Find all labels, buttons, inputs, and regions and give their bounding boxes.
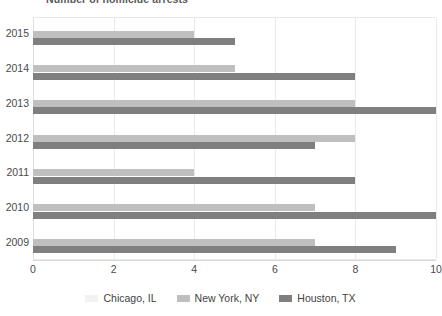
bar-new-york-2014 bbox=[33, 65, 235, 72]
legend-label: Chicago, IL bbox=[103, 292, 156, 304]
bar-houston-2011 bbox=[33, 177, 355, 184]
legend-item[interactable]: New York, NY bbox=[177, 292, 260, 304]
bar-group bbox=[33, 52, 436, 87]
legend-label: New York, NY bbox=[195, 292, 260, 304]
bar-group bbox=[33, 86, 436, 121]
legend-swatch-icon bbox=[85, 295, 98, 302]
legend-item[interactable]: Chicago, IL bbox=[85, 292, 156, 304]
bar-houston-2010 bbox=[33, 212, 436, 219]
legend-label: Houston, TX bbox=[297, 292, 355, 304]
bar-new-york-2012 bbox=[33, 135, 355, 142]
bar-houston-2015 bbox=[33, 38, 235, 45]
bar-group bbox=[33, 156, 436, 191]
chart-legend: Chicago, ILNew York, NYHouston, TX bbox=[0, 292, 441, 304]
bar-new-york-2010 bbox=[33, 204, 315, 211]
gridline bbox=[436, 18, 437, 259]
x-axis-line bbox=[33, 260, 436, 261]
x-axis-tick-label: 10 bbox=[430, 263, 442, 275]
bar-new-york-2011 bbox=[33, 169, 194, 176]
y-axis-tick-label: 2012 bbox=[0, 132, 29, 144]
bar-new-york-2015 bbox=[33, 31, 194, 38]
y-axis-tick-label: 2010 bbox=[0, 201, 29, 213]
y-axis-tick-label: 2013 bbox=[0, 97, 29, 109]
legend-item[interactable]: Houston, TX bbox=[279, 292, 355, 304]
bar-new-york-2009 bbox=[33, 239, 315, 246]
bar-group bbox=[33, 225, 436, 260]
bar-group bbox=[33, 121, 436, 156]
bar-group bbox=[33, 191, 436, 226]
x-axis-tick-label: 2 bbox=[111, 263, 117, 275]
y-axis-tick-label: 2009 bbox=[0, 236, 29, 248]
bar-houston-2009 bbox=[33, 246, 396, 253]
y-axis-tick-label: 2014 bbox=[0, 62, 29, 74]
x-axis-tick-label: 6 bbox=[272, 263, 278, 275]
bar-group bbox=[33, 17, 436, 52]
y-axis-tick-label: 2011 bbox=[0, 166, 29, 178]
bar-houston-2012 bbox=[33, 142, 315, 149]
legend-swatch-icon bbox=[279, 295, 292, 302]
chart-title: Number of homicide arrests bbox=[46, 0, 188, 4]
x-axis-tick-label: 0 bbox=[30, 263, 36, 275]
x-axis-tick-label: 8 bbox=[352, 263, 358, 275]
bar-houston-2013 bbox=[33, 107, 436, 114]
legend-swatch-icon bbox=[177, 295, 190, 302]
x-axis-tick-label: 4 bbox=[191, 263, 197, 275]
bar-houston-2014 bbox=[33, 73, 355, 80]
y-axis-tick-label: 2015 bbox=[0, 27, 29, 39]
bar-new-york-2013 bbox=[33, 100, 355, 107]
